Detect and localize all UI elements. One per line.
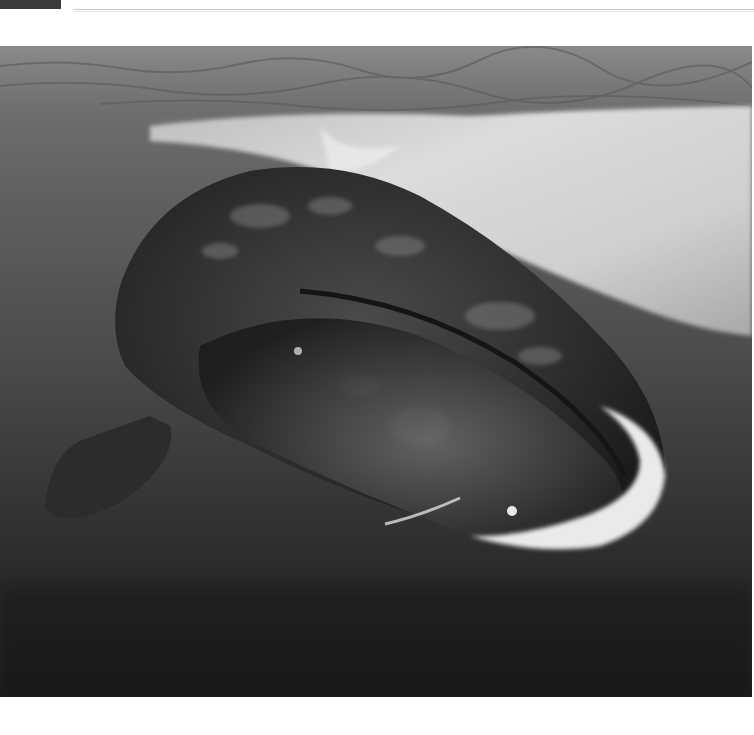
whale-photo <box>0 46 752 697</box>
header-rule-secondary <box>74 11 754 12</box>
section-tab-block <box>0 0 61 9</box>
page-footer <box>0 697 754 735</box>
water-surface <box>0 46 752 116</box>
whale-flipper <box>45 416 171 519</box>
page-header <box>0 0 754 46</box>
header-rule <box>74 9 754 10</box>
whale-eye <box>507 506 517 516</box>
whale-illustration <box>0 46 752 697</box>
